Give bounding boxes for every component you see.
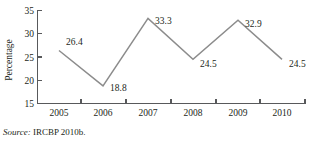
x-tick-label-2006: 2006 — [94, 108, 113, 118]
source-note: Source: IRCBP 2010b. — [3, 126, 86, 138]
data-label-2008: 24.5 — [200, 59, 217, 69]
source-text: IRCBP 2010b. — [31, 127, 86, 137]
data-point-labels: 26.4 18.8 33.3 24.5 32.9 24.5 — [66, 16, 306, 93]
x-tick-label-2007: 2007 — [139, 108, 158, 118]
chart-svg: Percentage 35 30 25 20 15 — [0, 0, 313, 120]
data-label-2006: 18.8 — [110, 83, 127, 93]
data-label-2007: 33.3 — [155, 16, 172, 26]
data-label-2009: 32.9 — [245, 19, 262, 29]
x-tick-label-2010: 2010 — [273, 108, 292, 118]
figure-container: Percentage 35 30 25 20 15 — [0, 0, 313, 144]
x-tick-label-2009: 2009 — [229, 108, 248, 118]
y-tick-label-15: 15 — [25, 99, 35, 109]
y-tick-label-35: 35 — [25, 6, 35, 16]
line-chart: Percentage 35 30 25 20 15 — [0, 0, 313, 120]
x-tick-label-2005: 2005 — [50, 108, 69, 118]
y-tick-label-30: 30 — [25, 29, 35, 39]
y-axis-tick-labels: 35 30 25 20 15 — [25, 6, 35, 109]
y-tick-label-20: 20 — [25, 76, 35, 86]
y-axis-title: Percentage — [4, 39, 14, 81]
x-axis-ticks — [81, 99, 305, 104]
x-axis-tick-labels: 2005 2006 2007 2008 2009 2010 — [50, 108, 292, 118]
x-tick-label-2008: 2008 — [184, 108, 203, 118]
data-label-2005: 26.4 — [66, 37, 83, 47]
y-axis-ticks — [38, 11, 43, 104]
y-tick-label-25: 25 — [25, 53, 35, 63]
source-label: Source: — [3, 127, 31, 137]
data-label-2010: 24.5 — [289, 59, 306, 69]
